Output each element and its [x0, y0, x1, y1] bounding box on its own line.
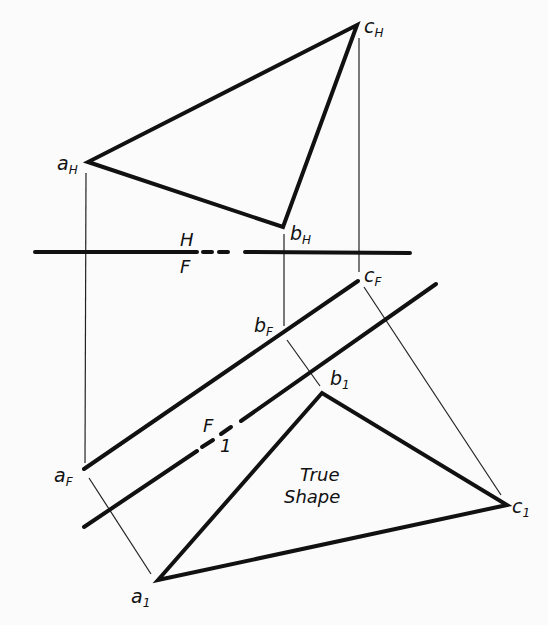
fold-line-hf — [35, 252, 410, 253]
true-shape-line1: True — [300, 464, 339, 485]
label-fold-hf-lower: F — [180, 256, 191, 277]
label-a-f: aF — [54, 464, 74, 489]
label-c-h: cH — [364, 15, 383, 40]
label-c-f: cF — [364, 264, 382, 289]
label-fold-hf-upper: H — [180, 229, 194, 250]
label-fold-f1-lower: 1 — [220, 435, 231, 456]
diagram-svg: aH bH cH H F cF bF aF F 1 b1 c1 a1 True … — [0, 0, 548, 625]
projector-a-f1 — [89, 478, 151, 574]
projector-a-hf — [85, 173, 86, 463]
true-shape-line2: Shape — [284, 486, 340, 507]
label-a-1: a1 — [131, 585, 150, 610]
label-c-1: c1 — [512, 495, 530, 520]
top-view-triangle — [88, 25, 357, 227]
label-a-h: aH — [57, 152, 78, 177]
diagram-canvas: aH bH cH H F cF bF aF F 1 b1 c1 a1 True … — [0, 0, 548, 625]
label-b-f: bF — [254, 314, 274, 339]
label-b-1: b1 — [330, 367, 350, 392]
label-b-h: bH — [290, 222, 311, 247]
label-fold-f1-upper: F — [203, 415, 214, 436]
